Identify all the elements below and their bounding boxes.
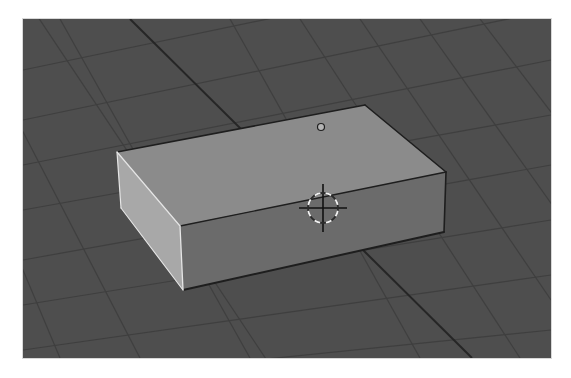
object-origin-icon <box>318 124 325 131</box>
page <box>0 0 571 378</box>
3d-viewport[interactable] <box>23 19 551 358</box>
viewport-canvas[interactable] <box>23 19 551 358</box>
